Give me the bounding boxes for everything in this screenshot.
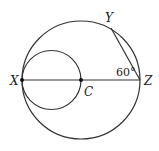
label-c: C [84,85,93,99]
point-x-dot [20,78,24,82]
point-c-dot [79,78,83,82]
geometry-diagram: X C Z Y 60° [0,0,159,151]
label-z: Z [143,74,153,88]
label-x: X [9,74,19,88]
label-y: Y [105,11,114,25]
angle-label: 60° [116,66,136,79]
